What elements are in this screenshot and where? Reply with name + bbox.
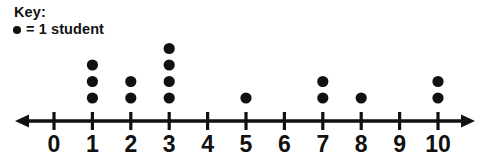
tick-label: 3 xyxy=(163,131,176,157)
data-dot xyxy=(87,76,98,87)
data-dot xyxy=(432,76,443,87)
tick-label: 1 xyxy=(86,131,99,157)
data-dot xyxy=(432,92,443,103)
tick-label: 10 xyxy=(425,131,451,157)
tick-labels-group: 012345678910 xyxy=(48,131,451,157)
number-line-plot: 012345678910 xyxy=(0,0,492,166)
arrow-left-icon xyxy=(15,115,29,128)
dot-plot-figure: Key: = 1 student 012345678910 xyxy=(0,0,492,166)
data-dot xyxy=(317,92,328,103)
data-dot xyxy=(317,76,328,87)
data-dot xyxy=(356,92,367,103)
data-dot xyxy=(164,92,175,103)
tick-label: 9 xyxy=(393,131,406,157)
data-dot xyxy=(164,76,175,87)
arrow-right-icon xyxy=(461,115,475,128)
tick-label: 8 xyxy=(355,131,368,157)
data-dot xyxy=(164,59,175,70)
tick-label: 5 xyxy=(240,131,253,157)
tick-label: 7 xyxy=(316,131,329,157)
data-dot xyxy=(240,92,251,103)
data-dot xyxy=(125,76,136,87)
tick-label: 4 xyxy=(201,131,214,157)
tick-label: 0 xyxy=(48,131,61,157)
data-dot xyxy=(125,92,136,103)
data-dot xyxy=(164,43,175,54)
tick-label: 6 xyxy=(278,131,291,157)
data-dots-group xyxy=(87,43,444,104)
tick-label: 2 xyxy=(124,131,137,157)
data-dot xyxy=(87,59,98,70)
data-dot xyxy=(87,92,98,103)
